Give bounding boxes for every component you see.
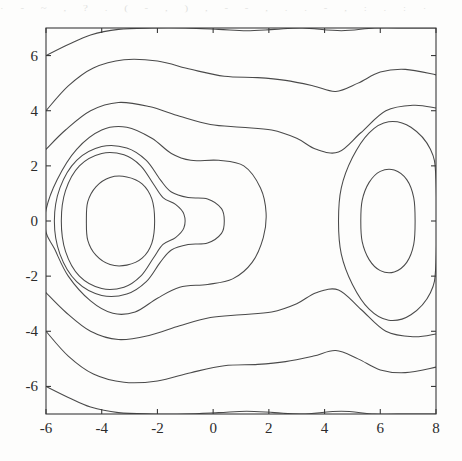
contour-path	[46, 331, 436, 383]
y-tick-label: -4	[26, 323, 39, 339]
y-tick-label: 0	[31, 213, 39, 229]
y-tick-label: 4	[31, 103, 39, 119]
contour-path	[46, 59, 436, 111]
y-tick-label: -2	[26, 268, 39, 284]
contour-path	[54, 145, 224, 296]
contour-path	[61, 153, 185, 290]
contour-path	[339, 122, 437, 321]
tick-labels-group: -6-4-202468-6-4-20246	[26, 48, 440, 436]
contour-path	[46, 28, 436, 56]
x-tick-label: 6	[377, 420, 385, 436]
contour-path	[45, 127, 266, 315]
x-tick-label: -2	[151, 420, 164, 436]
axes-group	[46, 28, 436, 414]
x-tick-label: 4	[321, 420, 329, 436]
x-tick-label: -6	[40, 420, 53, 436]
contour-path	[46, 386, 436, 414]
x-tick-label: 2	[265, 420, 273, 436]
x-tick-label: -4	[95, 420, 108, 436]
y-tick-label: -6	[26, 378, 39, 394]
plot-frame	[46, 28, 436, 414]
contour-lines-group	[45, 28, 437, 414]
x-tick-label: 8	[432, 420, 440, 436]
contour-path	[361, 169, 415, 272]
x-tick-label: 0	[209, 420, 217, 436]
contour-plot-figure: -6-4-202468-6-4-20246	[0, 0, 462, 461]
y-tick-label: 2	[31, 158, 39, 174]
y-tick-label: 6	[31, 48, 39, 64]
contour-path	[86, 176, 154, 266]
